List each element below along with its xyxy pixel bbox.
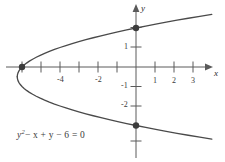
graph-figure: -4 -2 1 2 3 1 -1 -2 x y y2− x + y − 6 = …	[0, 0, 225, 162]
equation-plus-y: + y	[41, 130, 54, 140]
y-axis-arrow-icon	[133, 4, 140, 12]
point-x-intercept	[19, 64, 25, 70]
y-axis-label: y	[141, 4, 145, 13]
point-y-intercept-upper	[133, 25, 139, 31]
x-axis-arrow-icon	[205, 64, 213, 71]
ytick-label-1: 1	[124, 43, 128, 51]
xtick-label-1: 1	[153, 77, 157, 85]
xtick-label-minus2: -2	[95, 76, 102, 84]
xtick-label-minus4: -4	[57, 76, 64, 84]
xtick-label-3: 3	[191, 77, 195, 85]
equation-minus-x: − x	[25, 130, 38, 140]
xtick-label-2: 2	[172, 77, 176, 85]
x-axis-label: x	[214, 69, 218, 78]
point-y-intercept-lower	[133, 122, 139, 128]
equation-equals-0: = 0	[72, 130, 85, 140]
ytick-label-minus1: -1	[121, 82, 128, 90]
equation-annotation: y2− x + y − 6 = 0	[17, 128, 85, 140]
equation-minus-6: − 6	[56, 130, 69, 140]
ytick-label-minus2: -2	[121, 101, 128, 109]
